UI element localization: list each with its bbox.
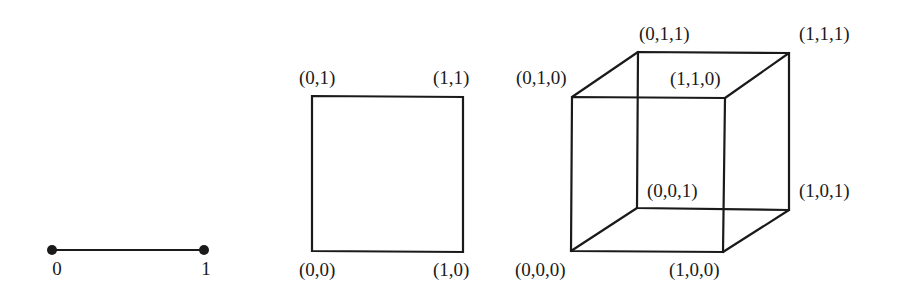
edge-000-001 bbox=[571, 208, 637, 251]
label-000: (0,0,0) bbox=[515, 259, 566, 281]
label-101: (1,0,1) bbox=[799, 180, 850, 202]
vertex-dot-0 bbox=[47, 245, 57, 255]
unit-square: (0,1) (1,1) (0,0) (1,0) bbox=[299, 67, 469, 281]
vertex-dot-1 bbox=[199, 245, 209, 255]
label-01: (0,1) bbox=[299, 67, 335, 89]
unit-segment: 0 1 bbox=[47, 245, 211, 279]
edge-110-111 bbox=[725, 53, 789, 98]
label-0: 0 bbox=[52, 258, 62, 279]
label-00: (0,0) bbox=[299, 259, 335, 281]
edge-010-011 bbox=[572, 52, 638, 97]
unit-cube: (0,1,1) (1,1,1) (0,1,0) (1,1,0) (0,0,1) … bbox=[515, 23, 850, 281]
label-011: (0,1,1) bbox=[639, 23, 690, 45]
square-edges bbox=[312, 96, 463, 252]
label-10: (1,0) bbox=[433, 259, 469, 281]
label-001: (0,0,1) bbox=[647, 180, 698, 202]
label-110: (1,1,0) bbox=[670, 68, 721, 90]
hypercube-diagram: 0 1 (0,1) (1,1) (0,0) (1,0) (0,1,1) (1,1… bbox=[0, 0, 904, 298]
label-010: (0,1,0) bbox=[516, 67, 567, 89]
cube-front-face bbox=[571, 97, 725, 252]
label-111: (1,1,1) bbox=[799, 23, 850, 45]
edge-100-101 bbox=[723, 210, 789, 252]
label-1: 1 bbox=[201, 258, 211, 279]
label-100: (1,0,0) bbox=[669, 259, 720, 281]
label-11: (1,1) bbox=[433, 67, 469, 89]
